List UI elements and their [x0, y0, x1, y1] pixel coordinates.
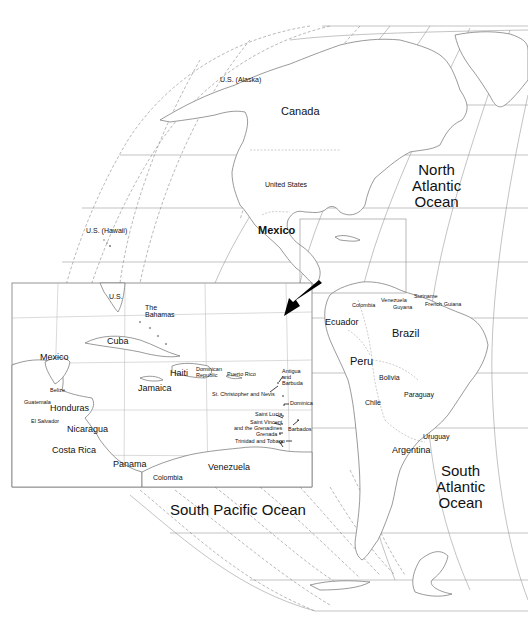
label-ecuador: Ecuador: [325, 318, 359, 327]
label-bolivia: Bolivia: [379, 374, 400, 381]
inset-label-saint-lucia: Saint Lucia: [255, 412, 282, 418]
label-us-alaska: U.S. (Alaska): [220, 76, 261, 83]
map-canvas: [0, 0, 528, 641]
inset-label-venezuela: Venezuela: [208, 463, 250, 472]
inset-label-trinidad-and-tobago: Trinidad and Tobago: [235, 439, 285, 445]
inset-label-colombia: Colombia: [153, 474, 183, 481]
inset-label-nicaragua: Nicaragua: [67, 425, 108, 434]
label-paraguay: Paraguay: [404, 391, 434, 398]
inset-label-the-bahamas: The Bahamas: [145, 304, 175, 319]
ocean-label-south-atlantic: South Atlantic Ocean: [436, 463, 485, 510]
greenland-outline: [455, 32, 528, 107]
inset-label-barbados: Barbados: [288, 427, 312, 433]
inset-label-guatemala: Guatemala: [24, 400, 51, 406]
inset-label-puerto-rico: Puerto Rico: [227, 372, 256, 378]
inset-label-panama: Panama: [113, 460, 147, 469]
label-brazil: Brazil: [392, 328, 420, 340]
inset-label-st-christopher-and-nevis: St. Christopher and Nevis: [212, 392, 275, 398]
label-argentina: Argentina: [392, 446, 431, 455]
inset-label-antigua-and-barbuda: Antigua and Barbuda: [282, 369, 303, 386]
ocean-label-north-atlantic: North Atlantic Ocean: [412, 162, 461, 209]
label-venezuela-main: Venezuela: [381, 298, 407, 304]
inset-label-grenada: Grenada: [256, 432, 277, 438]
label-uruguay: Uruguay: [423, 433, 449, 440]
label-mexico: Mexico: [258, 225, 295, 237]
inset-label-mexico: Mexico: [40, 353, 69, 362]
label-guyana: Guyana: [393, 305, 412, 311]
inset-label-cuba: Cuba: [107, 337, 129, 346]
label-chile: Chile: [365, 399, 381, 406]
inset-label-dominican-republic: Dominican Republic: [196, 367, 222, 379]
inset-label-costa-rica: Costa Rica: [52, 446, 96, 455]
inset-label-haiti: Haiti: [170, 369, 188, 378]
label-peru: Peru: [350, 356, 373, 368]
label-suriname: Suriname: [414, 294, 438, 300]
ocean-label-south-pacific: South Pacific Ocean: [170, 502, 306, 518]
inset-label-belize: Belize: [50, 388, 65, 394]
label-us-hawaii: U.S. (Hawaii): [86, 227, 127, 234]
label-french-guiana: French Guiana: [425, 302, 461, 308]
inset-label-saint-vincent: Saint Vincent and the Grenadines: [234, 420, 282, 432]
label-colombia-main: Colombia: [352, 303, 375, 309]
inset-label-honduras: Honduras: [50, 404, 89, 413]
inset-label-us: U.S.: [109, 293, 123, 300]
inset-label-jamaica: Jamaica: [138, 384, 172, 393]
inset-label-el-salvador: El Salvador: [31, 419, 59, 425]
inset-label-dominica: Dominica: [290, 401, 313, 407]
label-united-states: United States: [265, 181, 307, 188]
label-canada: Canada: [281, 106, 320, 118]
